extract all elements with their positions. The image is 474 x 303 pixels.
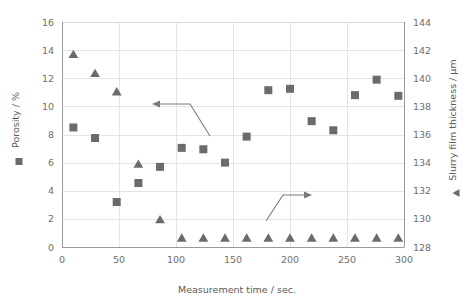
- slurry-thickness-data-point: [393, 233, 403, 241]
- porosity-data-point: [308, 117, 316, 125]
- y-left-tick-label: 16: [42, 17, 54, 28]
- y-right-tick-label: 136: [413, 129, 431, 140]
- right-axis-pointer-arrowhead: [304, 192, 312, 199]
- porosity-data-point: [351, 91, 359, 99]
- slurry-thickness-data-point: [350, 233, 360, 241]
- x-tick-label: 200: [281, 254, 299, 265]
- scatter-plot-svg: 050100150200250300 1614121086420 1441421…: [0, 0, 474, 303]
- right-axis-pointer-line: [266, 195, 306, 221]
- x-tick-label: 0: [59, 254, 65, 265]
- y-right-tick-label: 132: [413, 185, 431, 196]
- y-left-tick-label: 14: [42, 45, 54, 56]
- slurry-thickness-data-point: [220, 233, 230, 241]
- porosity-data-point: [264, 86, 272, 94]
- y-right-tick-label: 142: [413, 45, 431, 56]
- y-left-tick-label: 10: [42, 101, 54, 112]
- y-right-axis-title: Slurry film thickness / µm: [447, 59, 458, 180]
- left-axis-pointer-line: [158, 104, 210, 136]
- slurry-thickness-data-point: [198, 233, 208, 241]
- porosity-data-point: [286, 85, 294, 93]
- porosity-data-point: [113, 198, 121, 206]
- slurry-thickness-data-point: [242, 233, 252, 241]
- y-right-tick-label: 138: [413, 101, 431, 112]
- slurry-thickness-data-point: [177, 233, 187, 241]
- y-right-axis-tick-labels: 144142140138136134132130128: [413, 17, 431, 253]
- y-left-tick-label: 0: [48, 242, 54, 253]
- y-right-tick-label: 134: [413, 157, 431, 168]
- x-tick-label: 100: [167, 254, 185, 265]
- y-left-tick-label: 2: [48, 213, 54, 224]
- x-tick-label: 50: [113, 254, 125, 265]
- y-right-tick-label: 128: [413, 242, 431, 253]
- porosity-data-point: [394, 92, 402, 100]
- porosity-data-point: [243, 133, 251, 141]
- chart-figure: 050100150200250300 1614121086420 1441421…: [0, 0, 474, 303]
- y-left-axis-tick-labels: 1614121086420: [42, 17, 54, 253]
- porosity-data-point: [221, 159, 229, 167]
- thickness-legend-triangle-icon: [453, 189, 460, 197]
- slurry-thickness-data-point: [285, 233, 295, 241]
- y-left-tick-label: 12: [42, 73, 54, 84]
- porosity-data-point: [134, 179, 142, 187]
- slurry-thickness-data-point: [328, 233, 338, 241]
- y-right-tick-label: 144: [413, 17, 431, 28]
- porosity-data-point: [329, 126, 337, 134]
- slurry-thickness-data-point: [263, 233, 273, 241]
- porosity-data-point: [69, 123, 77, 131]
- porosity-data-point: [199, 145, 207, 153]
- y-left-tick-label: 6: [48, 157, 54, 168]
- chart-canvas: 050100150200250300 1614121086420 1441421…: [0, 0, 474, 303]
- slurry-thickness-data-point: [90, 69, 100, 77]
- slurry-thickness-data-point: [112, 87, 122, 95]
- slurry-thickness-data-point: [372, 233, 382, 241]
- porosity-legend-square-icon: [16, 158, 23, 165]
- x-tick-label: 150: [224, 254, 242, 265]
- x-axis-title: Measurement time / sec.: [178, 284, 296, 295]
- x-axis-tick-labels: 050100150200250300: [59, 254, 413, 265]
- porosity-data-point: [373, 76, 381, 84]
- y-left-tick-label: 4: [48, 185, 54, 196]
- y-left-axis-title: Porosity / %: [10, 92, 21, 148]
- y-left-tick-label: 8: [48, 129, 54, 140]
- x-tick-label: 300: [395, 254, 413, 265]
- y-right-tick-label: 140: [413, 73, 431, 84]
- gridlines: [62, 22, 405, 248]
- x-tick-label: 250: [338, 254, 356, 265]
- slurry-thickness-data-point: [307, 233, 317, 241]
- porosity-data-point: [178, 144, 186, 152]
- porosity-data-point: [91, 134, 99, 142]
- porosity-data-point: [156, 163, 164, 171]
- y-right-tick-label: 130: [413, 213, 431, 224]
